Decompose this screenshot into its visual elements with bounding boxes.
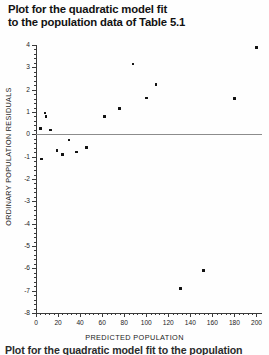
- x-tick-minor: [71, 313, 72, 315]
- y-tick-minor: [34, 81, 36, 82]
- x-tick-label: 200: [246, 319, 266, 326]
- y-tick-minor: [34, 215, 36, 216]
- x-axis-label: PREDICTED POPULATION: [0, 333, 269, 342]
- y-tick-major: [32, 179, 36, 180]
- x-tick-label: 160: [202, 319, 222, 326]
- y-tick-major: [32, 291, 36, 292]
- y-tick-minor: [34, 286, 36, 287]
- y-tick-major: [32, 134, 36, 135]
- data-point: [145, 97, 148, 100]
- x-tick-minor: [230, 313, 231, 315]
- data-point: [56, 149, 59, 152]
- x-tick-label: 0: [26, 319, 46, 326]
- x-tick-major: [58, 313, 59, 317]
- x-tick-minor: [151, 313, 152, 315]
- data-point: [49, 129, 52, 132]
- x-tick-label: 140: [180, 319, 200, 326]
- y-tick-minor: [34, 264, 36, 265]
- y-tick-minor: [34, 170, 36, 171]
- y-axis-label: ORDINARY POPULATION RESIDUALS: [4, 67, 13, 247]
- y-tick-minor: [34, 148, 36, 149]
- y-tick-minor: [34, 94, 36, 95]
- x-axis-line: [36, 313, 262, 314]
- x-tick-label: 120: [158, 319, 178, 326]
- y-tick-minor: [34, 108, 36, 109]
- y-tick-minor: [34, 85, 36, 86]
- y-tick-label: 0: [14, 130, 30, 137]
- y-tick-minor: [34, 188, 36, 189]
- x-tick-minor: [204, 313, 205, 315]
- y-tick-minor: [34, 130, 36, 131]
- x-tick-minor: [182, 313, 183, 315]
- y-tick-minor: [34, 304, 36, 305]
- x-tick-major: [124, 313, 125, 317]
- x-tick-minor: [173, 313, 174, 315]
- y-tick-major: [32, 201, 36, 202]
- x-tick-label: 40: [70, 319, 90, 326]
- x-tick-major: [190, 313, 191, 317]
- data-point: [85, 146, 88, 149]
- y-tick-minor: [34, 255, 36, 256]
- y-tick-label: -4: [14, 220, 30, 227]
- x-tick-minor: [155, 313, 156, 315]
- x-tick-minor: [115, 313, 116, 315]
- y-tick-label: -1: [14, 153, 30, 160]
- y-tick-minor: [34, 121, 36, 122]
- x-tick-minor: [159, 313, 160, 315]
- y-tick-minor: [34, 192, 36, 193]
- x-tick-minor: [137, 313, 138, 315]
- y-tick-minor: [34, 300, 36, 301]
- x-tick-minor: [107, 313, 108, 315]
- x-tick-minor: [54, 313, 55, 315]
- y-tick-minor: [34, 233, 36, 234]
- x-tick-minor: [252, 313, 253, 315]
- data-point: [40, 158, 43, 161]
- x-tick-label: 180: [224, 319, 244, 326]
- y-tick-minor: [34, 250, 36, 251]
- data-point: [44, 112, 47, 115]
- x-tick-minor: [49, 313, 50, 315]
- y-tick-label: -7: [14, 287, 30, 294]
- data-point: [179, 287, 182, 290]
- y-tick-minor: [34, 58, 36, 59]
- x-tick-major: [234, 313, 235, 317]
- x-tick-minor: [221, 313, 222, 315]
- x-tick-minor: [217, 313, 218, 315]
- x-tick-minor: [89, 313, 90, 315]
- data-point: [233, 97, 236, 100]
- x-tick-minor: [199, 313, 200, 315]
- x-tick-minor: [76, 313, 77, 315]
- data-point: [118, 107, 121, 110]
- y-tick-minor: [34, 219, 36, 220]
- x-tick-label: 60: [92, 319, 112, 326]
- y-tick-minor: [34, 259, 36, 260]
- y-tick-minor: [34, 152, 36, 153]
- x-tick-minor: [85, 313, 86, 315]
- y-tick-label: -6: [14, 264, 30, 271]
- y-tick-minor: [34, 210, 36, 211]
- y-tick-minor: [34, 183, 36, 184]
- x-tick-minor: [67, 313, 68, 315]
- data-point: [202, 269, 205, 272]
- x-tick-minor: [40, 313, 41, 315]
- data-point: [155, 83, 158, 86]
- x-tick-major: [36, 313, 37, 317]
- y-tick-minor: [34, 54, 36, 55]
- x-tick-minor: [120, 313, 121, 315]
- data-point: [255, 46, 258, 49]
- x-tick-major: [80, 313, 81, 317]
- y-tick-label: -5: [14, 242, 30, 249]
- y-tick-label: -2: [14, 175, 30, 182]
- y-tick-label: 2: [14, 86, 30, 93]
- y-tick-minor: [34, 242, 36, 243]
- x-tick-minor: [164, 313, 165, 315]
- y-tick-minor: [34, 63, 36, 64]
- x-tick-minor: [177, 313, 178, 315]
- x-tick-minor: [239, 313, 240, 315]
- y-tick-minor: [34, 103, 36, 104]
- zero-reference-line: [36, 134, 262, 135]
- y-tick-label: 3: [14, 63, 30, 70]
- data-point: [45, 115, 48, 118]
- scatter-plot: ORDINARY POPULATION RESIDUALS PREDICTED …: [0, 0, 269, 355]
- y-tick-minor: [34, 143, 36, 144]
